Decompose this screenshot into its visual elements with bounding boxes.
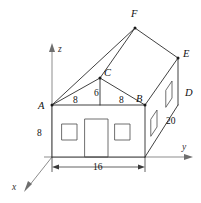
- label-E: E: [182, 48, 190, 59]
- y-axis-arrowhead: [184, 154, 193, 160]
- dim-arrow-left: [52, 165, 59, 170]
- label-A: A: [37, 100, 45, 111]
- x-axis-line: [29, 157, 52, 186]
- z-axis-label: z: [57, 44, 62, 54]
- z-axis-arrowhead: [49, 43, 55, 52]
- house-diagram: z y x: [0, 0, 201, 203]
- label-gable-height: 6: [94, 88, 99, 98]
- label-wall-height: 8: [37, 128, 42, 138]
- label-half-width-right: 8: [119, 95, 124, 105]
- label-front-width: 16: [93, 162, 103, 172]
- vertex-dot-A: [51, 104, 54, 107]
- label-half-width-left: 8: [73, 95, 78, 105]
- front-wall-face: [52, 105, 145, 157]
- label-D: D: [184, 87, 193, 98]
- label-B: B: [136, 93, 143, 104]
- vertex-dot-F: [134, 27, 137, 30]
- y-axis-label: y: [181, 142, 187, 152]
- dim-arrow-right: [138, 165, 145, 170]
- vertex-dot-B: [144, 104, 147, 107]
- vertex-dot-E: [177, 57, 180, 60]
- label-C: C: [104, 67, 112, 78]
- x-axis-label: x: [11, 182, 17, 192]
- label-depth: 20: [166, 116, 176, 126]
- x-axis-arrowhead: [24, 181, 32, 192]
- label-F: F: [130, 8, 138, 19]
- vertex-dot-C: [99, 77, 102, 80]
- diagram-canvas: z y x: [0, 0, 201, 203]
